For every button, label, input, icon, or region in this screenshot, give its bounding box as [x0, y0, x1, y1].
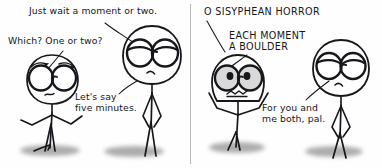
- body-group: [21, 104, 82, 151]
- character-right-bespectacled: [116, 24, 188, 158]
- character-anguished-screamer: [196, 52, 280, 154]
- head-group: [313, 40, 369, 96]
- character-left-bespectacled: [8, 52, 92, 156]
- leader-line-sisyphean: [206, 20, 228, 54]
- panel-right: O SISYPHEAN HORROR EACH MOMENT A BOULDER…: [192, 0, 382, 168]
- caption-which-one-or-two: Which? One or two?: [8, 36, 103, 47]
- panel-left: Just wait a moment or two. Which? One or…: [0, 0, 190, 168]
- character-deadpan-companion: [306, 38, 378, 160]
- caption-each-moment-a-boulder: EACH MOMENT A BOULDER: [229, 30, 305, 53]
- head-group: [212, 55, 264, 101]
- caption-just-wait: Just wait a moment or two.: [29, 6, 157, 17]
- head-group: [27, 55, 78, 104]
- comic-strip: Just wait a moment or two. Which? One or…: [0, 0, 382, 168]
- body-group: [332, 96, 350, 158]
- panel-divider: [190, 4, 191, 164]
- body-group: [143, 84, 161, 156]
- head-group: [123, 26, 181, 84]
- caption-o-sisyphean-horror: O SISYPHEAN HORROR: [204, 6, 320, 17]
